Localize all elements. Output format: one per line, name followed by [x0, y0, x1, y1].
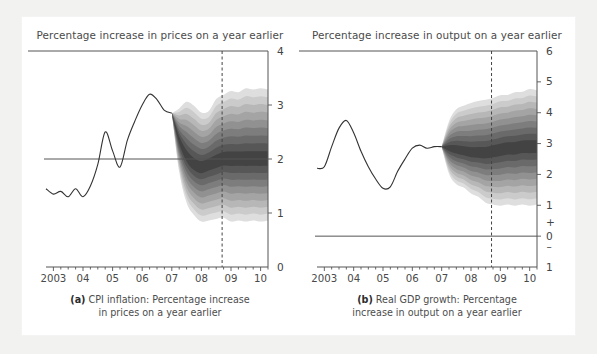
svg-text:1: 1: [546, 261, 553, 273]
svg-text:2: 2: [546, 168, 553, 180]
svg-text:4: 4: [277, 45, 284, 57]
chart-a-svg: 20030405060708091001234: [22, 45, 298, 295]
chart-a-caption-line1: CPI inflation: Percentage increase: [89, 294, 250, 305]
svg-text:3: 3: [277, 99, 284, 111]
chart-a-caption-label: (a): [70, 294, 85, 305]
chart-b-svg: 20030405060708091010123456+–: [299, 45, 575, 295]
svg-text:5: 5: [546, 75, 553, 87]
chart-b-title: Percentage increase in output on a year …: [299, 29, 575, 41]
svg-text:04: 04: [77, 273, 90, 284]
chart-b-caption-line2: increase in output on a year earlier: [352, 307, 521, 318]
svg-text:6: 6: [546, 45, 553, 57]
chart-a-title: Percentage increase in prices on a year …: [22, 29, 298, 41]
svg-text:0: 0: [277, 261, 284, 273]
svg-text:+: +: [546, 216, 555, 228]
chart-panel-b: Percentage increase in output on a year …: [299, 17, 575, 335]
svg-text:2: 2: [277, 153, 284, 165]
svg-text:09: 09: [494, 273, 507, 284]
svg-text:08: 08: [195, 273, 208, 284]
svg-text:07: 07: [165, 273, 178, 284]
svg-text:2003: 2003: [40, 273, 66, 284]
svg-text:08: 08: [465, 273, 478, 284]
chart-panel-a: Percentage increase in prices on a year …: [22, 17, 298, 335]
chart-a-caption-line2: in prices on a year earlier: [98, 307, 221, 318]
svg-text:05: 05: [377, 273, 390, 284]
chart-b-caption: (b) Real GDP growth: Percentage increase…: [303, 293, 571, 319]
svg-text:05: 05: [106, 273, 119, 284]
svg-text:09: 09: [225, 273, 238, 284]
svg-text:07: 07: [435, 273, 448, 284]
chart-b-caption-line1: Real GDP growth: Percentage: [376, 294, 517, 305]
figure-frame: Percentage increase in prices on a year …: [0, 0, 597, 354]
svg-text:4: 4: [546, 106, 553, 118]
svg-text:04: 04: [347, 273, 360, 284]
chart-b-plot: 20030405060708091010123456+–: [299, 45, 575, 295]
svg-text:06: 06: [136, 273, 149, 284]
chart-b-caption-label: (b): [357, 294, 373, 305]
svg-text:10: 10: [254, 273, 267, 284]
svg-text:1: 1: [546, 199, 553, 211]
figure-page: Percentage increase in prices on a year …: [22, 17, 575, 335]
chart-a-plot: 20030405060708091001234: [22, 45, 298, 295]
svg-text:10: 10: [523, 273, 536, 284]
chart-a-caption: (a) CPI inflation: Percentage increase i…: [26, 293, 294, 319]
svg-text:1: 1: [277, 207, 284, 219]
svg-text:06: 06: [406, 273, 419, 284]
svg-text:2003: 2003: [311, 273, 337, 284]
svg-text:–: –: [547, 240, 552, 252]
svg-text:3: 3: [546, 137, 553, 149]
